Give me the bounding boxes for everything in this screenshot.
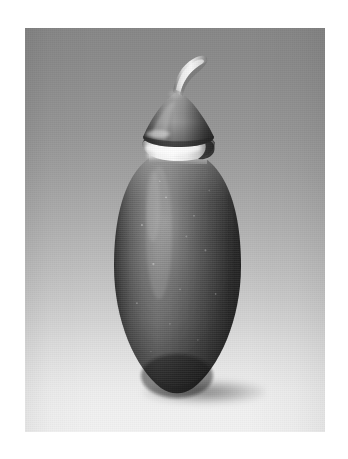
vessel-object [25, 28, 325, 432]
photo-page: Studio photograph of a dark ovoid cerami… [0, 0, 348, 459]
photograph: Studio photograph of a dark ovoid cerami… [25, 28, 325, 432]
vessel-body [114, 150, 241, 398]
vessel-lid [143, 91, 214, 147]
stem-finial [169, 56, 208, 98]
